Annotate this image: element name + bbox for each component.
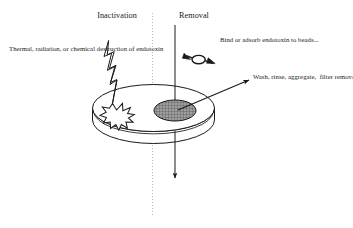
column-heading-removal: Removal xyxy=(163,11,225,21)
bead-particle-icon xyxy=(182,53,215,64)
annotation-wash-rinse-filter: Wash, rinse, aggregate, filter removal o… xyxy=(253,73,351,81)
diagram-canvas xyxy=(0,0,353,228)
annotation-bind-adsorb-beads: Bind or adsorb endotoxin to beads... xyxy=(220,36,350,44)
endotoxin-diagram: Inactivation Removal Thermal, radiation,… xyxy=(0,0,353,228)
filter-patch-icon xyxy=(154,100,196,121)
annotation-thermal-destruction: Thermal, radiation, or chemical destruct… xyxy=(9,45,93,53)
column-heading-inactivation: Inactivation xyxy=(84,11,150,21)
